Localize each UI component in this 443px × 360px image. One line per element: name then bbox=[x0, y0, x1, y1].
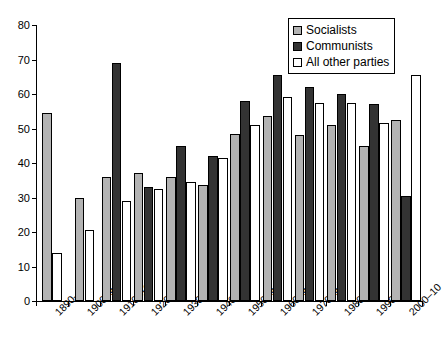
y-axis-tick-label: 10 bbox=[18, 261, 30, 272]
legend-item-label: Communists bbox=[306, 40, 373, 53]
legend-item-label: All other parties bbox=[306, 56, 389, 69]
y-axis-tick-label: 70 bbox=[18, 54, 30, 65]
bar-communists bbox=[144, 187, 154, 301]
bar-communists bbox=[401, 196, 411, 301]
bar-other bbox=[283, 97, 293, 301]
x-axis-tick bbox=[358, 301, 359, 306]
legend-swatch-icon bbox=[293, 58, 302, 67]
bar-communists bbox=[369, 104, 379, 301]
y-axis-tick bbox=[32, 94, 37, 95]
y-axis-tick-label: 40 bbox=[18, 158, 30, 169]
chart-title bbox=[0, 0, 429, 1]
bar-communists bbox=[240, 101, 250, 301]
bar-socialists bbox=[134, 173, 144, 301]
bar-socialists bbox=[295, 135, 305, 301]
bar-socialists bbox=[75, 198, 85, 302]
bar-socialists bbox=[230, 134, 240, 301]
y-axis-tick bbox=[32, 25, 37, 26]
bar-communists bbox=[337, 94, 347, 301]
bar-other bbox=[218, 158, 228, 301]
bar-other bbox=[85, 230, 95, 301]
y-axis-tick bbox=[32, 163, 37, 164]
bar-other bbox=[347, 103, 357, 301]
y-axis-tick-label: 0 bbox=[24, 296, 30, 307]
bar-other bbox=[52, 253, 62, 301]
y-axis-tick-label: 30 bbox=[18, 192, 30, 203]
bar-communists bbox=[112, 63, 122, 301]
y-axis-tick-label: 60 bbox=[18, 89, 30, 100]
x-axis-tick bbox=[229, 301, 230, 306]
bar-other bbox=[315, 103, 325, 301]
bar-socialists bbox=[166, 177, 176, 301]
x-axis-tick bbox=[390, 301, 391, 306]
bar-communists bbox=[273, 75, 283, 301]
y-axis-tick bbox=[32, 232, 37, 233]
bar-other bbox=[154, 189, 164, 301]
y-axis-tick bbox=[32, 267, 37, 268]
x-axis-tick bbox=[422, 301, 423, 306]
bar-other bbox=[411, 75, 421, 301]
legend-swatch-icon bbox=[293, 42, 302, 51]
x-axis-tick bbox=[165, 301, 166, 306]
chart-legend: SocialistsCommunistsAll other parties bbox=[288, 18, 395, 74]
bar-communists bbox=[176, 146, 186, 301]
x-axis-tick bbox=[36, 301, 37, 306]
x-axis-tick bbox=[68, 301, 69, 306]
bar-socialists bbox=[198, 185, 208, 301]
x-axis-tick bbox=[293, 301, 294, 306]
legend-item-communists[interactable]: Communists bbox=[293, 38, 389, 54]
legend-item-socialists[interactable]: Socialists bbox=[293, 22, 389, 38]
y-axis-tick-label: 80 bbox=[18, 20, 30, 31]
x-axis-tick bbox=[133, 301, 134, 306]
x-axis-tick bbox=[261, 301, 262, 306]
y-axis-tick bbox=[32, 129, 37, 130]
bar-communists bbox=[305, 87, 315, 301]
bar-socialists bbox=[327, 125, 337, 301]
x-axis-tick bbox=[197, 301, 198, 306]
bar-other bbox=[122, 201, 132, 301]
bar-other bbox=[250, 125, 260, 301]
bar-socialists bbox=[359, 146, 369, 301]
legend-swatch-icon bbox=[293, 26, 302, 35]
x-axis-tick bbox=[326, 301, 327, 306]
y-axis-tick bbox=[32, 198, 37, 199]
y-axis-tick-label: 20 bbox=[18, 227, 30, 238]
x-axis-tick bbox=[100, 301, 101, 306]
legend-item-other[interactable]: All other parties bbox=[293, 54, 389, 70]
y-axis-tick-label: 50 bbox=[18, 123, 30, 134]
bar-other bbox=[186, 182, 196, 301]
bar-socialists bbox=[42, 113, 52, 301]
bar-socialists bbox=[263, 116, 273, 301]
bar-other bbox=[379, 123, 389, 301]
bar-socialists bbox=[102, 177, 112, 301]
bar-communists bbox=[208, 156, 218, 301]
bar-socialists bbox=[391, 120, 401, 301]
legend-item-label: Socialists bbox=[306, 24, 357, 37]
y-axis-tick bbox=[32, 60, 37, 61]
